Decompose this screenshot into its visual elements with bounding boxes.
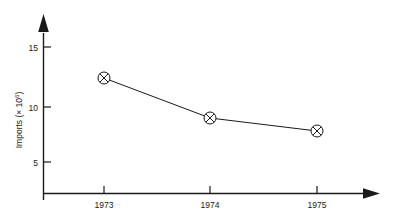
- data-point-1975[interactable]: [311, 125, 323, 137]
- chart-background: [0, 0, 404, 222]
- y-axis-title-base: Imports (× 10: [14, 98, 24, 149]
- x-tick-label-1974: 1974: [201, 200, 220, 210]
- x-tick-label-1973: 1973: [95, 200, 114, 210]
- y-axis-title-text: Imports (× 106): [14, 92, 24, 149]
- y-axis-title-close: ): [14, 92, 24, 95]
- y-tick-label-15: 15: [29, 43, 39, 53]
- y-axis-title: Imports (× 106): [14, 92, 24, 149]
- line-chart: 15 10 5 1973 1974 1975 Imports (× 106): [0, 0, 404, 222]
- y-tick-label-5: 5: [33, 158, 38, 168]
- data-point-1973[interactable]: [98, 72, 110, 84]
- data-point-1974[interactable]: [204, 112, 216, 124]
- y-tick-label-10: 10: [29, 103, 39, 113]
- x-tick-label-1975: 1975: [308, 200, 327, 210]
- chart-container: 15 10 5 1973 1974 1975 Imports (× 106): [0, 0, 404, 222]
